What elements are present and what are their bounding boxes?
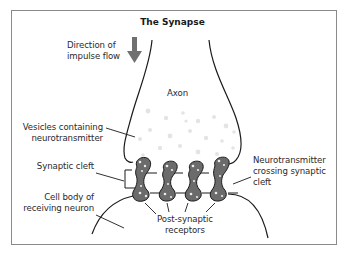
label-post-synaptic: Post-synaptic receptors [140, 214, 230, 236]
label-neurotransmitter-crossing: Neurotransmitter crossing synaptic cleft [253, 155, 326, 188]
receptor-dumbbells [133, 157, 230, 201]
label-axon: Axon [167, 88, 188, 99]
diagram-title: The Synapse [0, 17, 345, 27]
down-arrow-icon [127, 37, 142, 63]
vesicle-dots [138, 109, 236, 157]
axon-outline-right [209, 40, 241, 164]
label-vesicles: Vesicles containing neurotransmitter [14, 122, 103, 144]
receptor-4 [210, 157, 229, 201]
label-cell-body: Cell body of receiving neuron [14, 192, 94, 214]
label-synaptic-cleft: Synaptic cleft [14, 161, 94, 172]
label-direction: Direction of impulse flow [67, 40, 120, 62]
receptor-2 [159, 161, 177, 201]
receptor-1 [133, 157, 151, 201]
axon-outline-left [124, 40, 152, 162]
leader-lines [96, 128, 251, 228]
receiving-neuron-right [228, 194, 268, 238]
receiving-neuron-left [92, 196, 133, 234]
